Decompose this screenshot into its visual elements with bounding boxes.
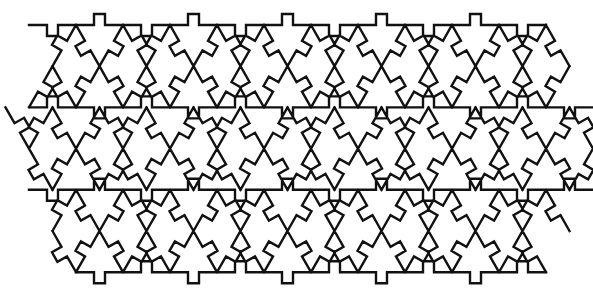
tessellation-lines [6,14,593,283]
tile-edges [6,14,593,283]
tessellation-figure [0,0,593,293]
